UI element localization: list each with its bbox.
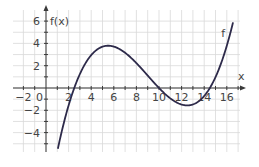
y-tick-label: 6	[33, 15, 40, 28]
x-tick-label: 8	[133, 91, 140, 104]
x-tick-label: 4	[88, 91, 95, 104]
y-tick-label: −2	[24, 104, 40, 117]
x-tick-label: 16	[220, 91, 234, 104]
function-curve-f	[58, 22, 233, 148]
x-tick-label: 6	[110, 91, 117, 104]
x-axis-label: x	[238, 70, 245, 83]
grid	[13, 10, 240, 152]
x-tick-label: 14	[197, 91, 211, 104]
function-graph: −22468101214160−4−2246 f(x) x f	[0, 0, 259, 167]
y-tick-label: 2	[33, 60, 40, 73]
axis-ticks	[23, 21, 238, 144]
tick-labels: −22468101214160−4−2246	[15, 15, 234, 140]
curve-label: f	[221, 27, 226, 40]
y-tick-label: −4	[24, 127, 40, 140]
y-axis-label: f(x)	[50, 15, 69, 28]
x-tick-label: −2	[15, 91, 31, 104]
axes	[13, 5, 246, 152]
y-tick-label: 4	[33, 37, 40, 50]
origin-label: 0	[36, 91, 43, 104]
